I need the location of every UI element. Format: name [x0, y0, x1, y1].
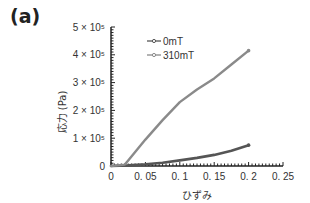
y-axis: 01 × 10⁵2 × 10⁵3 × 10⁵4 × 10⁵5 × 10⁵: [73, 22, 115, 172]
y-tick-label: 4 × 10⁵: [73, 49, 105, 60]
stress-strain-chart: 01 × 10⁵2 × 10⁵3 × 10⁵4 × 10⁵5 × 10⁵ 00.…: [0, 0, 310, 203]
y-tick-label: 0: [99, 161, 105, 172]
y-tick-label: 2 × 10⁵: [73, 105, 105, 116]
x-tick-label: 0. 2: [240, 171, 257, 182]
x-tick-label: 0. 05: [134, 171, 157, 182]
x-tick-label: 0: [108, 171, 114, 182]
legend-label: 310mT: [163, 50, 194, 61]
x-tick-label: 0. 1: [171, 171, 188, 182]
plot-series: [111, 49, 250, 166]
series-end-marker: [247, 143, 251, 147]
x-tick-label: 0. 15: [203, 171, 226, 182]
series-line-310mT: [111, 51, 249, 166]
y-tick-label: 1 × 10⁵: [73, 133, 105, 144]
legend: 0mT310mT: [147, 36, 194, 61]
x-tick-label: 0. 25: [272, 171, 295, 182]
y-tick-label: 5 × 10⁵: [73, 22, 105, 33]
y-axis-title: 応力 (Pa): [56, 91, 68, 134]
x-axis-title: ひずみ: [182, 190, 212, 201]
legend-label: 0mT: [163, 36, 183, 47]
series-end-marker: [247, 49, 251, 53]
y-tick-label: 3 × 10⁵: [73, 77, 105, 88]
